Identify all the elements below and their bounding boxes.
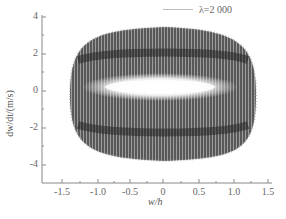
legend-label: λ=2 000 bbox=[199, 4, 232, 15]
x-axis-label: w/h bbox=[148, 196, 162, 207]
ytick-0: 0 bbox=[24, 84, 38, 95]
xtick-neg0.5: -0.5 bbox=[115, 186, 145, 197]
trajectory-band bbox=[70, 27, 256, 161]
legend: λ=2 000 bbox=[163, 4, 232, 15]
ytick-4: 4 bbox=[24, 10, 38, 21]
ytick-2: 2 bbox=[24, 47, 38, 58]
xtick-0.5: 0.5 bbox=[184, 186, 214, 197]
xtick-1.5: 1.5 bbox=[253, 186, 283, 197]
xtick-neg1.5: -1.5 bbox=[47, 186, 77, 197]
legend-line-swatch bbox=[163, 9, 193, 10]
xtick-1.0: 1.0 bbox=[219, 186, 249, 197]
ytick-neg4: -4 bbox=[24, 158, 38, 169]
y-axis-label: dw/dt/(m/s) bbox=[4, 79, 15, 149]
ytick-neg2: -2 bbox=[24, 121, 38, 132]
xtick-neg1.0: -1.0 bbox=[83, 186, 113, 197]
